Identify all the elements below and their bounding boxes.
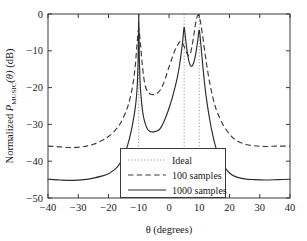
y-axis-title-subscript: MUSIC: [10, 82, 18, 105]
x-tick-label: 30: [255, 202, 266, 213]
svg-text:Normalized PMUSIC(θ) (dB): Normalized PMUSIC(θ) (dB): [4, 48, 18, 163]
x-axis-title: θ (degrees): [146, 224, 193, 236]
x-tick-label: −20: [100, 202, 116, 213]
x-tick-label: 20: [224, 202, 235, 213]
y-axis-tick-labels: −50−40−30−20−100: [27, 9, 43, 204]
y-tick-label: 0: [38, 9, 43, 20]
y-tick-label: −20: [27, 82, 43, 93]
x-tick-label: −30: [70, 202, 86, 213]
y-tick-label: −10: [27, 45, 43, 56]
y-axis-title-argument: (θ): [4, 70, 16, 83]
legend-label: Ideal: [172, 155, 192, 166]
x-tick-label: 10: [194, 202, 205, 213]
y-axis-title-prefix: Normalized: [4, 111, 15, 163]
x-tick-label: 0: [166, 202, 171, 213]
x-tick-label: −10: [131, 202, 147, 213]
x-tick-label: 40: [285, 202, 296, 213]
legend-label: 100 samples: [172, 170, 222, 181]
x-axis-tick-labels: −40−30−20−10010203040: [40, 202, 295, 213]
chart-legend: Ideal100 samples1000 samples: [121, 149, 227, 198]
music-spectrum-figure: −40−30−20−10010203040 −50−40−30−20−100 θ…: [0, 0, 307, 241]
y-tick-label: −30: [27, 119, 43, 130]
chart-canvas: −40−30−20−10010203040 −50−40−30−20−100 θ…: [0, 0, 307, 241]
y-axis-title: Normalized PMUSIC(θ) (dB): [4, 48, 18, 163]
y-axis-title-units: (dB): [4, 48, 16, 70]
legend-label: 1000 samples: [172, 185, 227, 196]
x-tick-label: −40: [40, 202, 56, 213]
y-tick-label: −50: [27, 193, 43, 204]
y-tick-label: −40: [27, 156, 43, 167]
